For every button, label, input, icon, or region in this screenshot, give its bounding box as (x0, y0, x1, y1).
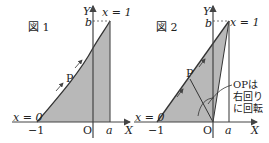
figure-2-point-p: P (186, 68, 193, 79)
figure-2-end-label: x = 1 (230, 17, 259, 28)
figure-1-end-label: x = 1 (102, 7, 131, 18)
figure-2-annotation-line-1: OPは (233, 79, 263, 91)
figure-1-motion-arrow-1 (56, 83, 63, 91)
figure-2-annotation-line-3: に回転 (233, 103, 263, 115)
figure-1-b-label: b (85, 17, 92, 28)
figure-1-title: 図 1 (28, 22, 50, 33)
figure-1-tick-neg1: −1 (28, 125, 44, 136)
figure-1-start-label: x = 0 (13, 112, 42, 123)
figure-1-a-label: a (106, 125, 113, 136)
figure-1-shaded-region (37, 21, 110, 122)
figure-1-point-p: P (66, 73, 73, 84)
figure-2-start-label: x = 0 (135, 112, 164, 123)
figure-2-a-label: a (225, 125, 232, 136)
figure-2-y-axis-label: Y (203, 6, 210, 17)
figure-2-annotation-line-2: 右回り (233, 91, 263, 103)
figure-1-origin-label: O (83, 125, 92, 136)
figure-2-annotation: OPは 右回り に回転 (233, 79, 263, 115)
figure-1-x-axis-label: X (125, 125, 133, 136)
figure-2-tick-neg1: −1 (148, 125, 164, 136)
figure-2-b-label: b (205, 18, 212, 29)
figure-2-title: 図 2 (156, 22, 178, 33)
figure-2-x-axis-label: X (251, 125, 259, 136)
figure-2-origin-label: O (203, 125, 212, 136)
